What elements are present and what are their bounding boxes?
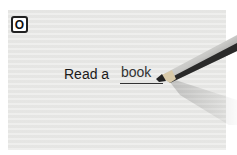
answer-text: book <box>121 64 151 80</box>
exercise-label: O <box>11 16 28 33</box>
exercise-label-text: O <box>15 19 24 31</box>
pencil-icon <box>150 15 237 125</box>
prompt-text: Read a <box>64 66 109 82</box>
